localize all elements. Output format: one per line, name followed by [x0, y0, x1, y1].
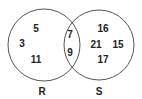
s-only-value: 17 — [97, 54, 109, 65]
intersection-value: 7 — [67, 29, 73, 40]
r-only-value: 11 — [31, 54, 42, 65]
intersection-value: 9 — [67, 47, 73, 58]
s-only-value: 15 — [112, 39, 124, 50]
set-s-label: S — [96, 86, 103, 97]
r-only-value: 3 — [19, 38, 25, 49]
venn-diagram: 5 3 11 7 9 16 21 15 17 R S — [0, 0, 142, 99]
s-only-value: 16 — [97, 23, 109, 34]
r-only-value: 5 — [33, 23, 39, 34]
set-r-label: R — [38, 86, 46, 97]
s-only-value: 21 — [90, 39, 102, 50]
